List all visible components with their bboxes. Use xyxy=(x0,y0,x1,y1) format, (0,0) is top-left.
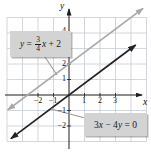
x-axis-label: x xyxy=(143,98,147,107)
x-tick-label: −2 xyxy=(31,97,45,105)
y-tick-label: 1 xyxy=(48,75,66,83)
y-tick-label: −1 xyxy=(48,107,66,115)
graph-figure: −2 −1 1 2 3 4 2 1 −1 −2 x y y = 34x + 2 … xyxy=(0,0,151,158)
eq1-equals: = xyxy=(24,39,34,49)
x-tick-label: 3 xyxy=(108,97,122,105)
equation-label-line1: y = 34x + 2 xyxy=(10,31,71,57)
eq1-fraction: 34 xyxy=(35,36,41,52)
eq2-equals: = xyxy=(122,120,132,130)
eq1-plus: + xyxy=(46,39,56,49)
x-tick-label: 1 xyxy=(77,97,91,105)
eq1-denominator: 4 xyxy=(36,45,40,53)
y-tick-label: −2 xyxy=(48,122,66,130)
y-axis-label: y xyxy=(60,2,64,11)
x-tick-label: −1 xyxy=(46,97,60,105)
y-tick-label: 2 xyxy=(48,60,66,68)
eq2-minus-coefficient2: − 4 xyxy=(103,120,118,130)
equation-label-line2: 3x − 4y = 0 xyxy=(84,113,147,136)
eq1-constant: 2 xyxy=(56,39,61,49)
eq2-rhs: 0 xyxy=(132,120,137,130)
x-tick-label: 2 xyxy=(93,97,107,105)
